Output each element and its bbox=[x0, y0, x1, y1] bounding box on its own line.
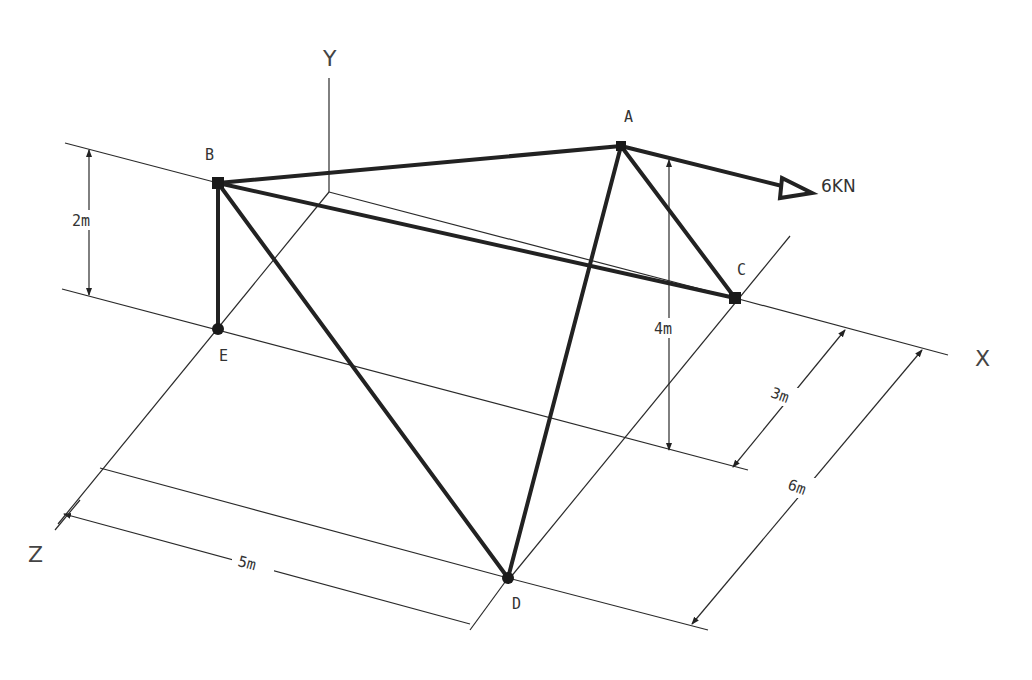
dimension-5m: 5m bbox=[232, 552, 274, 575]
svg-text:4m: 4m bbox=[654, 320, 672, 338]
x-axis-extension bbox=[735, 298, 948, 355]
joint-B bbox=[212, 177, 224, 189]
dimension-4m: 4m bbox=[654, 160, 686, 450]
joint-A bbox=[616, 141, 626, 151]
space-truss-diagram: Y X Z 2m 4m 3m 6m bbox=[0, 0, 1032, 680]
z-axis bbox=[58, 192, 329, 524]
joint-label-B: B bbox=[205, 146, 214, 164]
joint-C bbox=[729, 292, 741, 304]
member-BC bbox=[218, 183, 735, 298]
x-axis bbox=[329, 192, 735, 298]
y-axis-label: Y bbox=[322, 46, 337, 71]
joint-E bbox=[212, 323, 224, 335]
joints bbox=[212, 141, 741, 584]
coordinate-axes bbox=[58, 78, 948, 524]
joint-label-C: C bbox=[737, 261, 746, 279]
dimension-2m: 2m bbox=[72, 150, 106, 295]
arrowhead-icon bbox=[780, 178, 812, 198]
member-BD bbox=[218, 183, 508, 578]
joint-label-E: E bbox=[219, 347, 228, 365]
joint-label-A: A bbox=[624, 108, 633, 126]
dimension-6m: 6m bbox=[692, 350, 922, 624]
svg-text:6KN: 6KN bbox=[821, 176, 856, 196]
joint-D bbox=[502, 572, 514, 584]
x-axis-label: X bbox=[975, 346, 990, 371]
dimension-3m: 3m bbox=[733, 330, 845, 467]
truss-members bbox=[218, 146, 735, 578]
member-AB bbox=[218, 146, 621, 183]
svg-text:2m: 2m bbox=[72, 212, 90, 230]
member-AD bbox=[508, 146, 621, 578]
joint-label-D: D bbox=[512, 595, 521, 613]
z-axis-label: Z bbox=[28, 542, 43, 567]
